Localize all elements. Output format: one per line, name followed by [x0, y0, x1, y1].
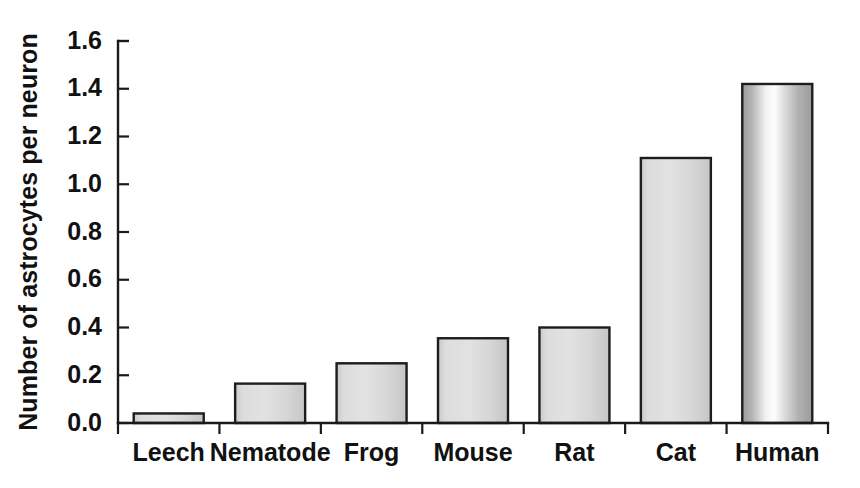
bar-chart: 0.00.20.40.60.81.01.21.41.6 LeechNematod… [0, 0, 860, 488]
y-tick-label-0.2: 0.2 [67, 360, 102, 388]
bar-human [742, 84, 812, 423]
chart-figure: 0.00.20.40.60.81.01.21.41.6 LeechNematod… [0, 0, 860, 488]
bar-leech [134, 413, 204, 423]
chart-background [0, 0, 860, 488]
bar-mouse [438, 338, 508, 423]
y-tick-label-0.6: 0.6 [67, 264, 102, 292]
bar-nematode [235, 384, 305, 423]
x-label-nematode: Nematode [210, 438, 331, 466]
y-tick-label-0.4: 0.4 [67, 312, 102, 340]
x-label-mouse: Mouse [433, 438, 512, 466]
bar-frog [337, 363, 407, 423]
y-tick-label-1.6: 1.6 [67, 26, 102, 54]
x-label-leech: Leech [133, 438, 205, 466]
y-axis-title: Number of astrocytes per neuron [14, 33, 42, 431]
x-label-frog: Frog [344, 438, 400, 466]
bar-rat [539, 328, 609, 424]
y-tick-label-1.4: 1.4 [67, 73, 102, 101]
y-axis-tick-labels: 0.00.20.40.60.81.01.21.41.6 [67, 26, 102, 436]
y-tick-label-0.8: 0.8 [67, 217, 102, 245]
y-tick-label-1.2: 1.2 [67, 121, 102, 149]
x-label-cat: Cat [656, 438, 697, 466]
y-tick-label-1.0: 1.0 [67, 169, 102, 197]
bar-cat [641, 158, 711, 423]
x-label-human: Human [735, 438, 820, 466]
x-label-rat: Rat [554, 438, 595, 466]
y-tick-label-0.0: 0.0 [67, 408, 102, 436]
